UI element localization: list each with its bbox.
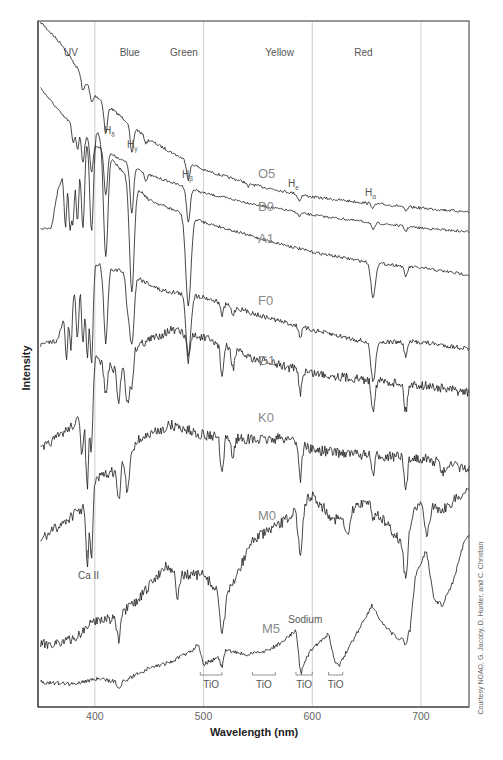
- line-label-h-2: Hβ: [182, 169, 193, 183]
- band-label-yellow: Yellow: [265, 47, 294, 58]
- absorption-line-labels: HδHγHβHeHα: [104, 125, 376, 200]
- x-tick-700: 700: [412, 710, 430, 722]
- spectrum-b0: [41, 88, 470, 234]
- line-label-h-0: Hδ: [104, 125, 115, 138]
- band-label-green: Green: [170, 47, 198, 58]
- tio-label-1: TiO: [256, 679, 272, 690]
- feature-label-ca-ii: Ca II: [78, 570, 99, 581]
- tio-label-2: TiO: [296, 679, 312, 690]
- tio-label-3: TiO: [328, 679, 344, 690]
- spectral-type-o5: O5: [258, 166, 275, 181]
- tio-bracket-2: [296, 672, 312, 675]
- line-label-h-3: He: [288, 178, 299, 191]
- feature-label-sodium: Sodium: [288, 614, 322, 625]
- spectral-type-b0: B0: [258, 199, 274, 214]
- spectral-type-m0: M0: [258, 508, 276, 523]
- spectrum-a1: [41, 133, 470, 306]
- color-band-labels: UVBlueGreenYellowRed: [64, 47, 373, 58]
- spectrum-m5: [41, 535, 470, 689]
- band-label-red: Red: [354, 47, 372, 58]
- spectrum-m0: [41, 488, 470, 648]
- band-label-uv: UV: [64, 47, 78, 58]
- x-tick-500: 500: [195, 710, 213, 722]
- tio-bracket-3: [329, 672, 343, 675]
- tio-band-brackets: TiOTiOTiOTiO: [200, 672, 343, 690]
- x-tick-400: 400: [86, 710, 104, 722]
- x-tick-600: 600: [303, 710, 321, 722]
- y-axis-title: Intensity: [20, 345, 32, 391]
- x-axis-title: Wavelength (nm): [210, 726, 299, 738]
- spectral-type-k0: K0: [258, 410, 274, 425]
- tio-label-0: TiO: [203, 679, 219, 690]
- feature-annotations: Ca IISodium: [78, 550, 322, 625]
- stellar-spectra-chart: UVBlueGreenYellowRed HδHγHβHeHα O5B0A1F0…: [0, 0, 503, 760]
- spectral-type-f0: F0: [258, 293, 273, 308]
- line-label-h-4: Hα: [365, 187, 376, 200]
- spectrum-g1: [41, 326, 470, 489]
- band-label-blue: Blue: [120, 47, 140, 58]
- spectral-type-m5: M5: [262, 621, 280, 636]
- tio-bracket-1: [252, 672, 275, 675]
- spectra-series: [41, 22, 470, 688]
- x-tick-labels: 400500600700: [86, 710, 430, 722]
- image-credit: Courtesy NOAO, G. Jacoby, D. Hunter, and…: [477, 541, 485, 714]
- spectrum-k0: [41, 420, 470, 567]
- spectrum-f0: [41, 264, 470, 382]
- spectral-type-a1: A1: [258, 231, 274, 246]
- spectral-type-labels: O5B0A1F0G1K0M0M5: [258, 166, 280, 636]
- spectral-type-g1: G1: [258, 353, 275, 368]
